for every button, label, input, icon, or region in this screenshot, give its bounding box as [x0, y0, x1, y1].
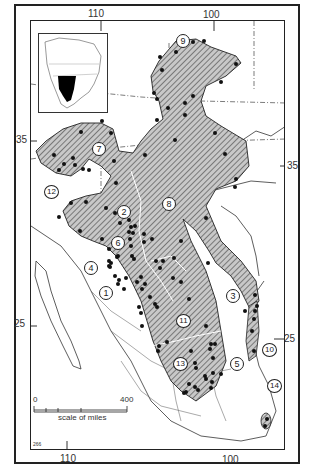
region-badge-3: 3 [226, 289, 240, 303]
region-badge-2: 2 [117, 205, 131, 219]
lon-label-100-top: 100 [203, 9, 220, 20]
north-america-outline [39, 34, 107, 112]
scale-start-label: 0 [33, 395, 37, 404]
lon-label-110-top: 110 [88, 8, 104, 19]
map-panel: 9 7 12 8 2 6 4 1 3 11 10 13 5 14 0 400 s… [30, 20, 285, 450]
region-badge-12: 12 [44, 185, 59, 199]
region-badge-4: 4 [84, 261, 98, 275]
region-badge-7: 7 [92, 142, 106, 156]
region-badge-1: 1 [99, 286, 113, 300]
inset-locator-map [38, 33, 108, 113]
scale-unit-label: scale of miles [58, 413, 106, 422]
region-badge-9: 9 [176, 34, 190, 48]
region-badge-6: 6 [111, 236, 125, 250]
range-highlight [58, 76, 76, 102]
lat-label-25-left: 25 [14, 318, 25, 329]
region-badge-8: 8 [162, 197, 176, 211]
region-badge-10: 10 [262, 343, 277, 357]
scale-bar [34, 406, 127, 412]
region-badge-11: 11 [176, 314, 191, 328]
figure-code: 266 [33, 441, 41, 447]
lon-label-110-bottom: 110 [60, 453, 76, 464]
lon-label-100-bottom: 100 [222, 454, 239, 465]
region-badge-13: 13 [173, 357, 188, 371]
lat-label-35-right: 35 [287, 160, 298, 171]
region-badge-14: 14 [267, 379, 282, 393]
lat-label-25-right: 25 [284, 333, 295, 344]
lat-label-35-left: 35 [16, 134, 27, 145]
region-badge-5: 5 [230, 357, 244, 371]
scale-end-label: 400 [120, 395, 133, 404]
